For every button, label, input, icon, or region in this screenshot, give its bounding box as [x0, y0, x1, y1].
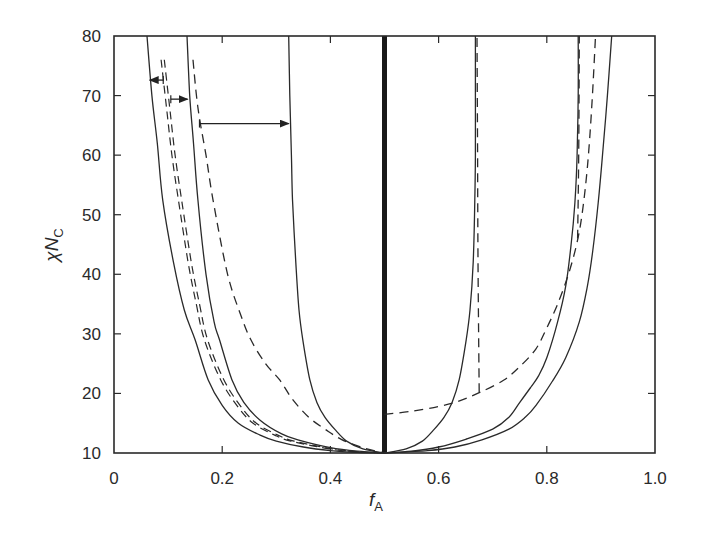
x-tick-label: 0.4	[319, 469, 343, 488]
y-tick-label: 50	[82, 206, 101, 225]
x-tick-label: 0	[109, 469, 118, 488]
series-left-inner-solid	[289, 36, 385, 453]
y-tick-label: 20	[82, 384, 101, 403]
x-tick-label: 0.8	[535, 469, 559, 488]
x-tick-label: 0.2	[210, 469, 234, 488]
y-axis-label-main: χN	[41, 237, 62, 263]
x-tick-label: 0.6	[427, 469, 451, 488]
x-axis-label-subscript: A	[374, 499, 383, 514]
series-left-double-dashed-offset	[164, 60, 386, 453]
y-axis-tick-labels: 1020304050607080	[82, 27, 101, 463]
y-tick-label: 40	[82, 265, 101, 284]
y-tick-label: 10	[82, 444, 101, 463]
annotations	[150, 76, 289, 127]
x-axis-label: fA	[369, 489, 383, 514]
series-left-double-dashed	[161, 60, 386, 453]
y-tick-label: 60	[82, 146, 101, 165]
x-tick-label: 1.0	[643, 469, 667, 488]
x-axis-tick-labels: 00.20.40.60.81.0	[109, 469, 667, 488]
series-left-second-solid	[187, 36, 385, 453]
series-right-inner-solid	[385, 36, 476, 453]
plot-series	[147, 36, 612, 453]
series-left-dashed	[193, 60, 385, 453]
y-tick-label: 80	[82, 27, 101, 46]
series-right-dashed-curve	[385, 36, 596, 414]
chart: 00.20.40.60.81.0 1020304050607080 fA χNC	[0, 0, 701, 545]
y-axis-label-subscript: C	[51, 228, 66, 237]
series-right-dashed-vertical-067	[477, 36, 479, 392]
y-tick-label: 70	[82, 87, 101, 106]
y-tick-label: 30	[82, 325, 101, 344]
series-left-double-dashed-line-b	[164, 60, 386, 453]
series-right-middle-solid	[385, 36, 579, 453]
series-left-double-dashed-line-a	[161, 60, 383, 453]
y-axis-label: χNC	[41, 228, 66, 263]
